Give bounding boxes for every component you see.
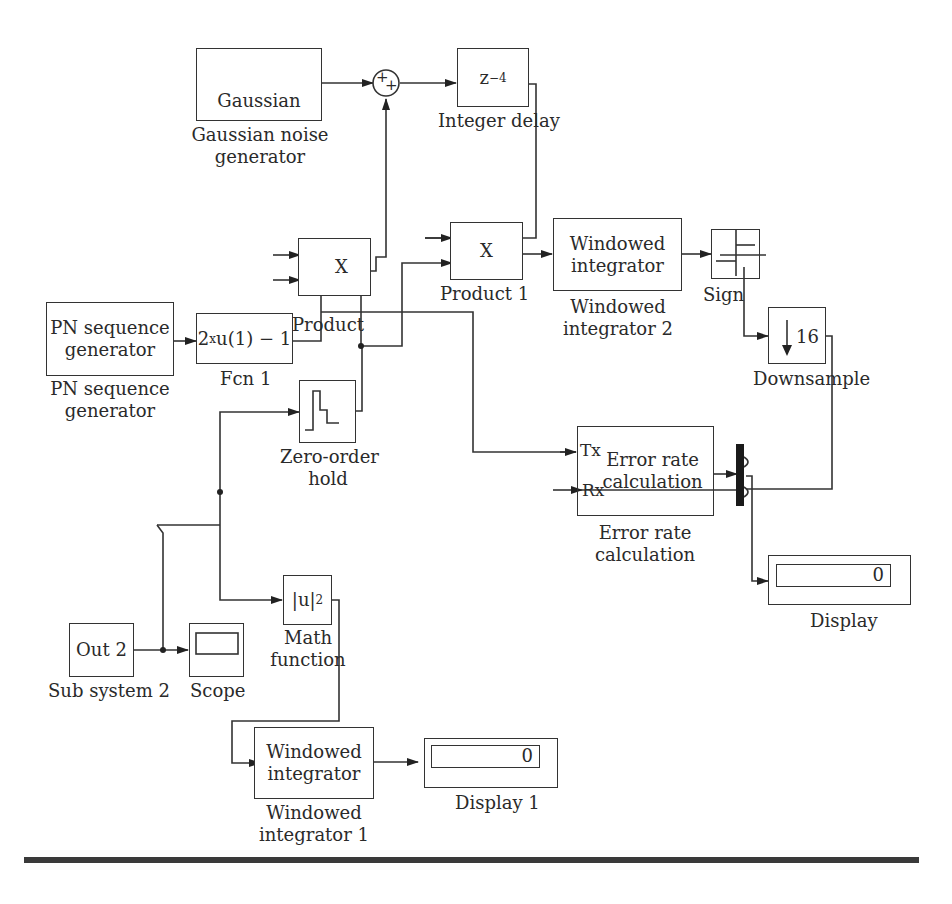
sign-label: Sign (703, 284, 744, 306)
zero-order-hold-label: Zero-order hold (280, 446, 376, 490)
scope-label: Scope (190, 680, 245, 702)
gaussian-noise-block[interactable]: Gaussian (196, 48, 322, 121)
rx-port-label: Rx (582, 480, 604, 500)
integer-delay-block[interactable]: z−4 (457, 48, 529, 107)
display-value: 0 (776, 564, 891, 587)
sum-plus-2: + (385, 76, 398, 94)
block-diagram-canvas: Gaussian Gaussian noise generator + + z−… (0, 0, 952, 904)
product-block[interactable]: X (298, 238, 371, 296)
fcn1-block[interactable]: 2xu(1) − 1 (196, 313, 293, 364)
windowed-integrator-1-label: Windowed integrator 1 (254, 802, 374, 846)
pn-sequence-label: PN sequence generator (46, 378, 174, 422)
integer-delay-label: Integer delay (438, 110, 548, 132)
windowed-integrator-2-label: Windowed integrator 2 (555, 296, 681, 340)
product1-label: Product 1 (440, 283, 529, 305)
windowed-integrator-2-block[interactable]: Windowed integrator (553, 218, 682, 291)
downsample-label: Downsample (753, 368, 870, 390)
subsystem2-block[interactable]: Out 2 (69, 623, 134, 677)
bottom-rule (24, 857, 919, 863)
display1-value: 0 (431, 745, 540, 768)
fcn1-label: Fcn 1 (220, 368, 271, 390)
display-label: Display (810, 610, 878, 632)
subsystem2-label: Sub system 2 (48, 680, 170, 702)
tx-port-label: Tx (580, 440, 601, 460)
sign-block[interactable] (711, 229, 760, 279)
math-function-label: Math function (270, 627, 346, 671)
product1-block[interactable]: X (450, 222, 523, 280)
gaussian-label: Gaussian noise generator (190, 124, 330, 168)
mux-bar (736, 444, 744, 506)
pn-sequence-block[interactable]: PN sequence generator (46, 302, 174, 376)
scope-block[interactable] (189, 623, 244, 677)
windowed-integrator-1-block[interactable]: Windowed integrator (254, 727, 374, 799)
error-rate-label: Error rate calculation (575, 522, 715, 566)
zero-order-hold-block[interactable] (299, 380, 356, 443)
product-label: Product (292, 314, 364, 336)
math-function-block[interactable]: |u|2 (283, 575, 332, 625)
display1-label: Display 1 (455, 792, 540, 814)
gaussian-text: Gaussian (217, 90, 300, 112)
downsample-block[interactable]: 16 (768, 307, 826, 364)
